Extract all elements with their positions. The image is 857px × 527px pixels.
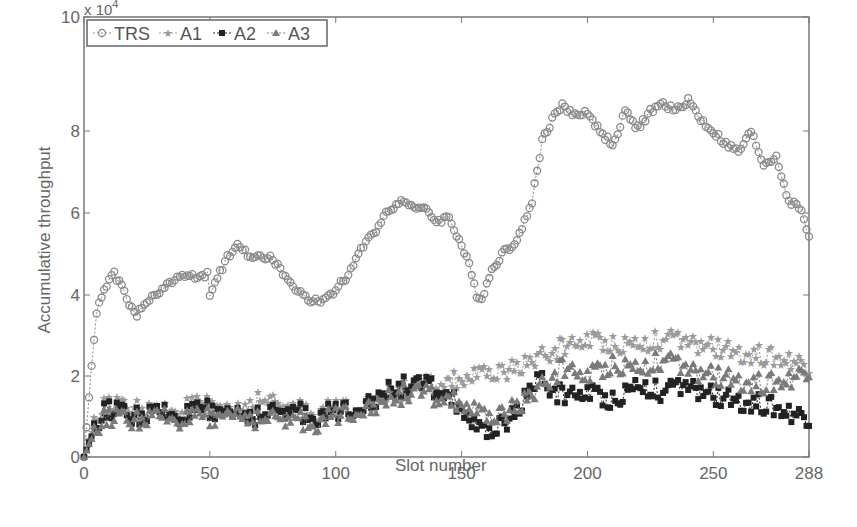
throughput-chart: 0501001502002502880246810x 104★★★★★★★★★★… bbox=[0, 0, 857, 527]
y-tick-label: 4 bbox=[71, 286, 80, 305]
triangle-marker bbox=[752, 382, 760, 389]
square-marker bbox=[783, 413, 789, 419]
y-tick-label: 10 bbox=[61, 8, 80, 27]
square-marker bbox=[723, 392, 729, 398]
x-tick-label: 288 bbox=[795, 464, 823, 483]
square-marker bbox=[710, 395, 716, 401]
square-marker bbox=[504, 427, 510, 433]
square-marker bbox=[303, 405, 309, 411]
triangle-marker bbox=[551, 368, 559, 375]
square-marker bbox=[642, 379, 648, 385]
square-marker bbox=[310, 416, 316, 422]
square-marker bbox=[657, 398, 663, 404]
star-marker: ★ bbox=[530, 360, 540, 372]
x-tick-label: 200 bbox=[573, 464, 601, 483]
square-marker bbox=[554, 399, 560, 405]
triangle-marker bbox=[211, 422, 219, 429]
square-marker bbox=[788, 419, 794, 425]
star-marker: ★ bbox=[585, 340, 595, 352]
square-marker bbox=[741, 408, 747, 414]
square-marker bbox=[569, 385, 575, 391]
triangle-marker bbox=[714, 364, 722, 371]
square-marker bbox=[733, 398, 739, 404]
triangle-marker bbox=[762, 386, 770, 393]
x-tick-label: 100 bbox=[322, 464, 350, 483]
square-marker bbox=[705, 389, 711, 395]
square-marker bbox=[486, 425, 492, 431]
square-marker bbox=[386, 379, 392, 385]
triangle-marker bbox=[561, 372, 569, 379]
triangle-marker bbox=[470, 399, 478, 406]
circle-marker bbox=[800, 216, 807, 223]
square-marker bbox=[428, 376, 434, 382]
square-marker bbox=[806, 423, 812, 429]
y-tick-label: 2 bbox=[71, 367, 80, 386]
square-marker bbox=[763, 409, 769, 415]
triangle-marker bbox=[601, 361, 609, 368]
x-tick-label: 50 bbox=[200, 464, 219, 483]
y-tick-label: 6 bbox=[71, 204, 80, 223]
square-marker bbox=[106, 398, 112, 404]
square-marker bbox=[559, 385, 565, 391]
circle-marker bbox=[448, 220, 455, 227]
y-multiplier: x 104 bbox=[84, 0, 118, 18]
triangle-marker bbox=[631, 358, 639, 365]
y-tick-label: 8 bbox=[71, 122, 80, 141]
legend-item-trs: TRS bbox=[114, 24, 150, 44]
square-marker bbox=[562, 400, 568, 406]
circle-marker bbox=[755, 149, 762, 156]
triangle-marker bbox=[641, 357, 649, 364]
square-marker bbox=[610, 390, 616, 396]
triangle-marker bbox=[677, 369, 685, 376]
square-marker bbox=[663, 388, 669, 394]
triangle-marker bbox=[770, 386, 778, 393]
legend-item-a1: A1 bbox=[180, 24, 202, 44]
circle-marker bbox=[209, 286, 216, 293]
square-marker bbox=[494, 431, 500, 437]
square-marker bbox=[678, 391, 684, 397]
square-marker bbox=[607, 405, 613, 411]
square-marker bbox=[768, 394, 774, 400]
square-marker bbox=[632, 377, 638, 383]
star-marker: ★ bbox=[754, 339, 764, 351]
square-marker bbox=[801, 414, 807, 420]
triangle-marker bbox=[463, 400, 471, 407]
square-marker bbox=[219, 30, 225, 36]
circle-marker bbox=[778, 173, 785, 180]
square-marker bbox=[416, 374, 422, 380]
square-marker bbox=[401, 373, 407, 379]
triangle-marker bbox=[735, 371, 743, 378]
circle-marker bbox=[468, 272, 475, 279]
square-marker bbox=[602, 392, 608, 398]
triangle-marker bbox=[724, 365, 732, 372]
circle-marker bbox=[466, 260, 473, 267]
square-marker bbox=[718, 403, 724, 409]
triangle-marker bbox=[697, 365, 705, 372]
x-tick-label: 0 bbox=[79, 464, 88, 483]
y-axis-label: Accumulative throughput bbox=[35, 135, 55, 345]
square-marker bbox=[547, 393, 553, 399]
star-marker: ★ bbox=[163, 27, 173, 39]
triangle-marker bbox=[707, 362, 715, 369]
square-marker bbox=[753, 403, 759, 409]
square-marker bbox=[786, 403, 792, 409]
triangle-marker bbox=[689, 360, 697, 367]
legend-item-a3: A3 bbox=[288, 24, 310, 44]
square-marker bbox=[577, 389, 583, 395]
x-tick-label: 250 bbox=[699, 464, 727, 483]
x-axis-label: Slot number bbox=[395, 456, 487, 476]
square-marker bbox=[771, 412, 777, 418]
triangle-marker bbox=[576, 368, 584, 375]
square-marker bbox=[620, 399, 626, 405]
square-marker bbox=[587, 396, 593, 402]
square-marker bbox=[652, 378, 658, 384]
legend-item-a2: A2 bbox=[234, 24, 256, 44]
circle-marker bbox=[780, 180, 787, 187]
